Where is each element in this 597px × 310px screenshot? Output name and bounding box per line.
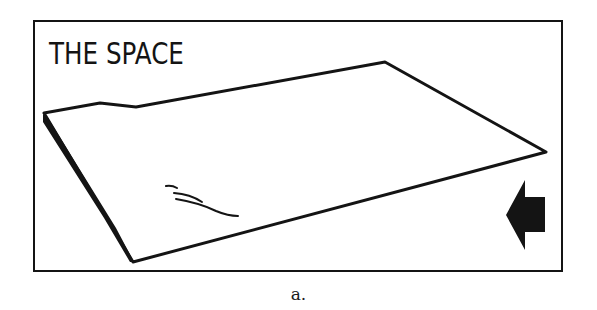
diagram-canvas [0, 0, 597, 310]
figure-caption: a. [0, 284, 597, 304]
tilted-plane-icon [43, 62, 546, 262]
arrow-left-icon [506, 180, 545, 250]
